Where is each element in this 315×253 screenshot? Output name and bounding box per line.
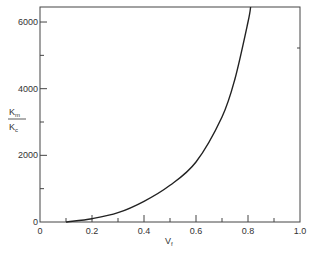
x-tick-label: 0.6 <box>190 226 203 236</box>
y-axis-label: Km Kc <box>8 107 26 133</box>
x-tick-label: 0 <box>37 226 42 236</box>
y-label-denominator: Kc <box>9 122 18 133</box>
chart: 00.20.40.60.81.0 0200040006000 Km Kc Vf <box>0 0 315 253</box>
x-tick-label: 0.2 <box>86 226 99 236</box>
y-label-numerator: Km <box>9 107 20 118</box>
data-curve <box>66 7 251 222</box>
y-axis-ticks: 0200040006000 <box>18 17 47 227</box>
x-tick-label: 1.0 <box>294 226 307 236</box>
x-axis-label: Vf <box>165 236 173 247</box>
x-tick-label: 0.4 <box>138 226 151 236</box>
x-axis-ticks: 00.20.40.60.81.0 <box>37 215 306 236</box>
y-tick-label: 4000 <box>18 84 38 94</box>
y-tick-label: 6000 <box>18 17 38 27</box>
y-tick-label: 0 <box>33 217 38 227</box>
x-tick-label: 0.8 <box>242 226 255 236</box>
y-tick-label: 2000 <box>18 150 38 160</box>
plot-frame <box>40 7 300 222</box>
